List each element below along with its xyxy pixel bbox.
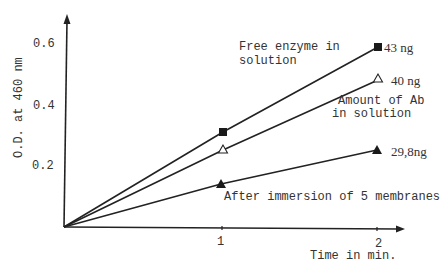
y-axis-arrow-icon	[64, 14, 71, 24]
y-tick-label-0.6: 0.6	[33, 37, 55, 51]
open-triangle-marker-icon	[374, 74, 383, 82]
y-axis-title: O.D. at 460 nm	[12, 57, 26, 158]
x-axis-title: Time in min.	[310, 249, 396, 263]
filled-square-marker-icon	[374, 43, 382, 51]
filled-triangle-marker-icon	[372, 145, 382, 154]
annotation-free-enzyme-line2: solution	[239, 54, 297, 68]
annotation-free-enzyme-line1: Free enzyme in	[239, 40, 340, 54]
y-axis	[64, 20, 67, 227]
end-label-40ng: 40 ng	[391, 74, 420, 88]
end-label-29-8ng: 29,8ng	[391, 145, 427, 159]
series-membranes-line	[64, 150, 377, 227]
x-tick-label-1: 1	[217, 235, 224, 249]
y-tick-label-0.2: 0.2	[32, 159, 54, 173]
end-label-43ng: 43 ng	[384, 41, 413, 55]
annotation-ab-solution-line2: in solution	[332, 107, 411, 121]
chart-canvas	[0, 0, 441, 268]
annotation-ab-solution-line1: Amount of Ab	[338, 94, 424, 108]
y-tick-label-0.4: 0.4	[33, 99, 55, 113]
x-axis	[64, 227, 399, 229]
annotation-immersion: After immersion of 5 membranes	[224, 190, 440, 204]
x-axis-arrow-icon	[396, 226, 405, 233]
filled-square-marker-icon	[219, 128, 227, 136]
